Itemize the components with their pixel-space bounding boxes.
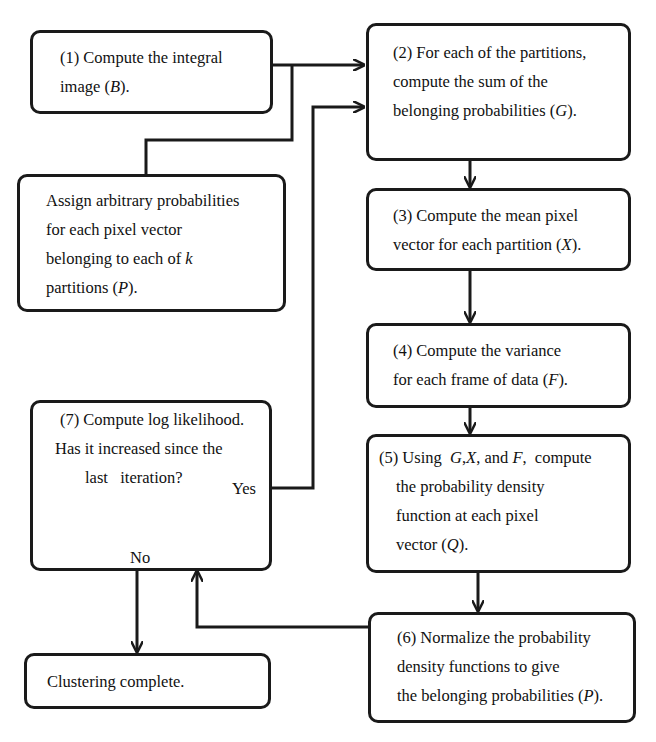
step2-line-1: (2) For each of the partitions, (393, 38, 628, 67)
step4-line-1: (4) Compute the variance (393, 336, 628, 365)
init-box: Assign arbitrary probabilities for each … (17, 174, 286, 312)
step6-line-1: (6) Normalize the probability (397, 623, 633, 652)
step6-line-2: density functions to give (397, 652, 633, 681)
step2-box: (2) For each of the partitions, compute … (366, 23, 631, 161)
init-line-1: Assign arbitrary probabilities (46, 186, 283, 215)
step4-line-2: for each frame of data (F). (393, 365, 628, 394)
step2-line-2: compute the sum of the (393, 67, 628, 96)
step6-box: (6) Normalize the probability density fu… (368, 612, 636, 723)
no-label: No (130, 548, 150, 568)
step4-box: (4) Compute the variance for each frame … (366, 323, 631, 408)
init-line-2: for each pixel vector (46, 215, 283, 244)
done-line-1: Clustering complete. (47, 667, 268, 696)
yes-label: Yes (232, 479, 256, 499)
done-box: Clustering complete. (24, 653, 271, 709)
step1-box: (1) Compute the integral image (B). (30, 30, 273, 114)
step3-line-2: vector for each partition (X). (393, 230, 628, 259)
init-line-4: partitions (P). (46, 273, 283, 302)
step5-box: (5) Using G,X, and F, compute the probab… (366, 434, 631, 573)
init-line-3: belonging to each of k (46, 244, 283, 273)
step7-line-1: (7) Compute log likelihood. (33, 405, 269, 434)
step3-line-1: (3) Compute the mean pixel (393, 201, 628, 230)
step5-line-4: vector (Q). (379, 530, 628, 559)
step1-line-1: (1) Compute the integral (60, 43, 270, 72)
step1-line-2: image (B). (60, 72, 270, 101)
step5-line-1: (5) Using G,X, and F, compute (379, 443, 628, 472)
step2-line-3: belonging probabilities (G). (393, 96, 628, 125)
step3-box: (3) Compute the mean pixel vector for ea… (366, 188, 631, 271)
step5-line-3: function at each pixel (379, 501, 628, 530)
step6-line-3: the belonging probabilities (P). (397, 681, 633, 710)
step7-line-2: Has it increased since the (33, 434, 269, 463)
step5-line-2: the probability density (379, 472, 628, 501)
arrow-step6-to-step7 (197, 571, 368, 627)
